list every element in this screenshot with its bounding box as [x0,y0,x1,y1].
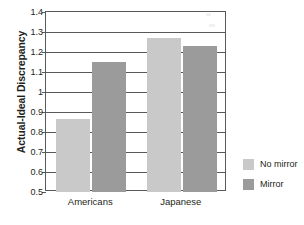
chart-legend: No mirror Mirror [243,159,298,190]
legend-label-mirror: Mirror [260,180,284,189]
y-axis-tick-label: 1.1 [30,68,43,77]
legend-swatch-no-mirror [243,159,254,170]
y-axis-tick-label: 0.7 [30,148,43,157]
y-axis-tick-label: 0.8 [30,128,43,137]
bar-japanese-mirror[interactable] [183,46,217,192]
plot-area: 1.41.31.21.110.90.80.70.60.5 [45,11,226,191]
y-axis-tick-label: 0.9 [30,108,43,117]
y-axis-tick-label: 1 [38,88,43,97]
legend-swatch-mirror [243,179,254,190]
legend-label-no-mirror: No mirror [260,160,298,169]
y-axis-tick-label: 1.4 [30,8,43,17]
x-axis-label-americans: Americans [45,196,136,207]
legend-item-mirror[interactable]: Mirror [243,179,298,190]
y-axis-tick-label: 1.3 [30,28,43,37]
gridline [46,32,225,33]
y-axis-tick-label: 0.6 [30,168,43,177]
bar-chart-figure: Actual-Ideal Discrepancy 1.41.31.21.110.… [0,0,304,225]
y-axis-title: Actual-Ideal Discrepancy [15,2,27,182]
legend-item-no-mirror[interactable]: No mirror [243,159,298,170]
x-axis-label-japanese: Japanese [136,196,227,207]
y-axis-tick-label: 1.2 [30,48,43,57]
bar-americans-mirror[interactable] [92,62,126,192]
bar-americans-no-mirror[interactable] [56,119,90,192]
y-axis-tick-label: 0.5 [30,188,43,197]
bar-japanese-no-mirror[interactable] [147,38,181,192]
